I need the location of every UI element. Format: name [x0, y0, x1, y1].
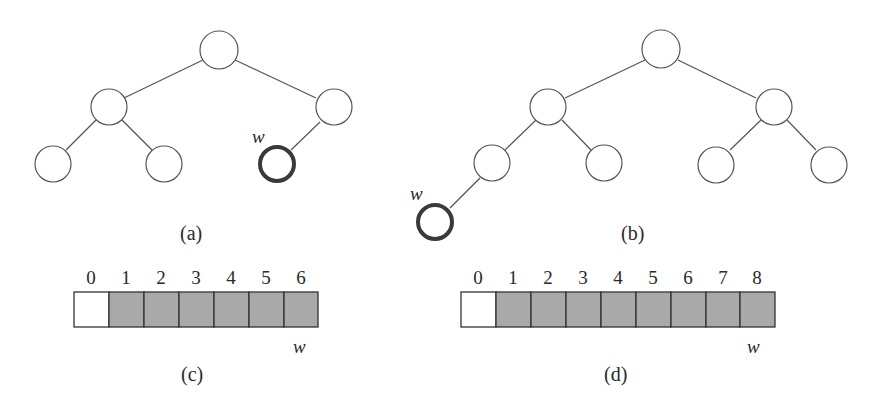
tree-a-node-root	[200, 31, 238, 69]
array-c-index: 3	[191, 267, 201, 288]
array-c-cell-5	[249, 292, 284, 327]
tree-b-node-1	[530, 89, 566, 125]
array-c-cell-4	[214, 292, 249, 327]
tree-a-node-w	[260, 147, 294, 181]
array-c-index: 1	[121, 267, 131, 288]
array-d-cell-2	[531, 292, 566, 327]
array-d-cell-7	[706, 292, 740, 327]
tree-b-node-3	[474, 145, 510, 181]
caption-c: (c)	[181, 363, 203, 386]
array-d-index: 0	[473, 267, 483, 288]
array-d-w-label: w	[747, 336, 760, 357]
array-d-index: 1	[508, 267, 518, 288]
array-d-cell-8	[740, 292, 775, 327]
array-c-indices: 0 1 2 3 4 5 6	[86, 267, 306, 288]
array-d-cell-4	[601, 292, 636, 327]
array-c-index: 5	[261, 267, 271, 288]
tree-b-node-4	[586, 145, 622, 181]
array-c-cell-6	[284, 292, 318, 327]
tree-b-node-root	[642, 30, 680, 68]
array-d-index: 5	[648, 267, 658, 288]
tree-b-node-2	[756, 89, 792, 125]
tree-b	[418, 30, 847, 239]
tree-a-w-label: w	[252, 126, 265, 147]
array-d-cell-1	[496, 292, 531, 327]
tree-a-node-4	[146, 146, 182, 182]
caption-d: (d)	[604, 363, 627, 386]
array-d-index: 6	[683, 267, 693, 288]
array-c-index: 2	[156, 267, 166, 288]
array-d-index: 7	[718, 267, 728, 288]
array-c-cell-2	[144, 292, 179, 327]
array-c-index: 4	[226, 267, 236, 288]
array-d-index: 2	[543, 267, 553, 288]
array-d-index: 3	[578, 267, 588, 288]
tree-b-node-5	[698, 147, 734, 183]
caption-b: (b)	[621, 222, 644, 245]
array-d-index: 8	[752, 267, 762, 288]
tree-b-node-w	[418, 205, 452, 239]
array-d-cell-6	[671, 292, 706, 327]
array-c-w-label: w	[293, 336, 306, 357]
tree-a-node-1	[91, 89, 127, 125]
heap-diagram: w (a) w (b) 0 1 2 3 4 5 6 w	[0, 0, 873, 400]
array-d-cell-3	[566, 292, 601, 327]
array-d-index: 4	[613, 267, 623, 288]
array-d-cell-5	[636, 292, 671, 327]
tree-b-w-label: w	[410, 183, 423, 204]
array-c-cell-1	[109, 292, 144, 327]
tree-a-node-2	[316, 89, 352, 125]
array-c-index: 0	[86, 267, 96, 288]
array-c-cell-0	[74, 292, 109, 327]
array-c-cell-3	[179, 292, 214, 327]
array-d-indices: 0 1 2 3 4 5 6 7 8	[473, 267, 762, 288]
caption-a: (a)	[180, 222, 202, 245]
tree-a	[35, 31, 352, 182]
tree-a-node-3	[35, 146, 71, 182]
array-c	[74, 292, 318, 327]
array-d-cell-0	[461, 292, 496, 327]
tree-b-node-6	[811, 147, 847, 183]
array-c-index: 6	[296, 267, 306, 288]
array-d	[461, 292, 775, 327]
